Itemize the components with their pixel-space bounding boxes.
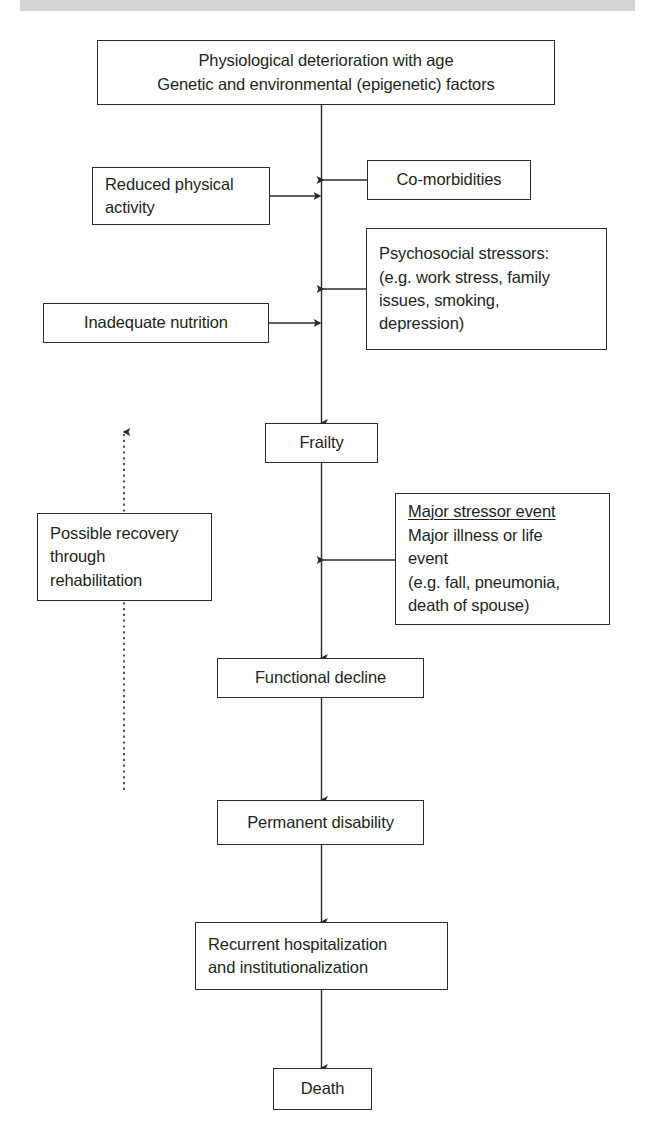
node-functional-decline: Functional decline <box>217 658 424 698</box>
node-permanent-disability-label: Permanent disability <box>247 811 394 834</box>
node-reduced-physical-activity-label: Reduced physical activity <box>105 173 234 220</box>
node-comorbidities-label: Co-morbidities <box>397 168 502 191</box>
node-death: Death <box>273 1068 372 1110</box>
node-comorbidities: Co-morbidities <box>367 160 531 200</box>
node-physiological-deterioration: Physiological deterioration with age Gen… <box>97 40 555 105</box>
node-physiological-deterioration-label: Physiological deterioration with age Gen… <box>157 49 495 96</box>
node-inadequate-nutrition-label: Inadequate nutrition <box>84 311 228 334</box>
node-frailty-label: Frailty <box>299 431 343 454</box>
node-death-label: Death <box>301 1077 345 1100</box>
node-recurrent-hospitalization: Recurrent hospitalization and institutio… <box>195 922 448 990</box>
diagram-canvas: Physiological deterioration with age Gen… <box>0 0 647 1129</box>
node-frailty: Frailty <box>265 423 378 463</box>
node-psychosocial-stressors-label: Psychosocial stressors: (e.g. work stres… <box>379 242 550 336</box>
node-functional-decline-label: Functional decline <box>255 666 386 689</box>
node-inadequate-nutrition: Inadequate nutrition <box>43 303 269 343</box>
node-major-stressor-event-detail: Major illness or life event (e.g. fall, … <box>408 526 560 614</box>
node-major-stressor-event-title: Major stressor event <box>408 502 555 520</box>
node-psychosocial-stressors: Psychosocial stressors: (e.g. work stres… <box>366 228 607 350</box>
node-possible-recovery-label: Possible recovery through rehabilitation <box>50 522 179 592</box>
node-reduced-physical-activity: Reduced physical activity <box>92 167 270 225</box>
node-possible-recovery: Possible recovery through rehabilitation <box>37 513 212 601</box>
node-permanent-disability: Permanent disability <box>217 800 424 845</box>
node-recurrent-hospitalization-label: Recurrent hospitalization and institutio… <box>208 933 387 980</box>
node-major-stressor-event: Major stressor eventMajor illness or lif… <box>395 493 610 625</box>
